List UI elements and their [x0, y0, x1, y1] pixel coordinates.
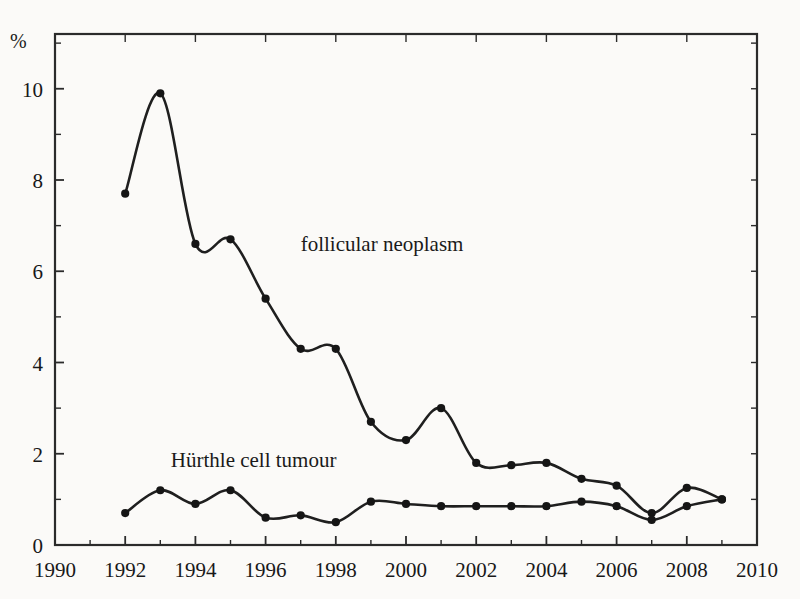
y-tick-label: 8 [33, 169, 44, 193]
plot-frame [55, 34, 757, 545]
data-point [121, 509, 129, 517]
data-point [437, 404, 445, 412]
x-tick-label: 1992 [104, 558, 146, 582]
series-line [125, 490, 722, 523]
y-tick-label: 4 [33, 352, 44, 376]
data-point [367, 498, 375, 506]
data-point [437, 502, 445, 510]
x-tick-label: 1990 [34, 558, 76, 582]
x-tick-label: 2002 [455, 558, 497, 582]
data-point [402, 436, 410, 444]
data-point [613, 482, 621, 490]
data-point [332, 518, 340, 526]
data-point [577, 498, 585, 506]
data-point [683, 502, 691, 510]
data-point [297, 345, 305, 353]
data-point [402, 500, 410, 508]
data-point [262, 514, 270, 522]
line-chart: % 19901992199419961998200020022004200620… [0, 0, 800, 599]
data-point [718, 495, 726, 503]
x-tick-label: 1994 [174, 558, 217, 582]
x-axis-tick-labels: 1990199219941996199820002002200420062008… [34, 558, 778, 582]
data-point [226, 235, 234, 243]
series-label-hurthle-cell-tumour: Hürthle cell tumour [171, 448, 337, 472]
data-point [156, 486, 164, 494]
data-point [472, 459, 480, 467]
data-point [648, 516, 656, 524]
data-point [367, 418, 375, 426]
data-point [683, 484, 691, 492]
x-tick-label: 2008 [666, 558, 708, 582]
y-tick-label: 0 [33, 534, 44, 558]
data-point [191, 500, 199, 508]
y-tick-label: 6 [33, 260, 44, 284]
x-tick-label: 2004 [525, 558, 568, 582]
x-tick-label: 1996 [245, 558, 287, 582]
data-point [156, 89, 164, 97]
series-annotations: follicular neoplasmHürthle cell tumour [171, 232, 464, 472]
chart-figure: % 19901992199419961998200020022004200620… [0, 0, 800, 599]
axis-ticks [55, 34, 757, 545]
data-point [613, 502, 621, 510]
x-tick-label: 1998 [315, 558, 357, 582]
x-tick-label: 2010 [736, 558, 778, 582]
y-axis-tick-labels: 0246810 [22, 78, 44, 558]
series-hurthle-cell-tumour [121, 486, 726, 526]
data-point [226, 486, 234, 494]
data-point [262, 295, 270, 303]
y-tick-label: 10 [22, 78, 43, 102]
x-tick-label: 2000 [385, 558, 427, 582]
x-tick-label: 2006 [596, 558, 638, 582]
data-point [472, 502, 480, 510]
data-point [542, 459, 550, 467]
data-point [577, 475, 585, 483]
data-point [507, 461, 515, 469]
y-axis-unit-label-text: % [10, 30, 27, 52]
data-point [121, 190, 129, 198]
data-point [191, 240, 199, 248]
data-point [332, 345, 340, 353]
y-tick-label: 2 [33, 443, 44, 467]
data-point [507, 502, 515, 510]
y-axis-unit-label: % [10, 30, 27, 52]
series-label-follicular-neoplasm: follicular neoplasm [301, 232, 464, 256]
plot-border [55, 34, 757, 545]
data-point [297, 511, 305, 519]
data-point [542, 502, 550, 510]
